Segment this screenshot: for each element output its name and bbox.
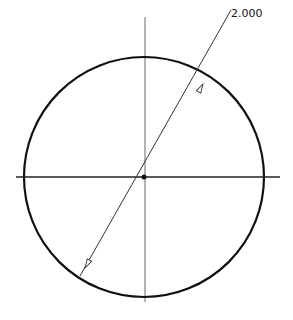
- center-point[interactable]: [142, 175, 147, 180]
- diameter-value-label[interactable]: 2.000: [231, 7, 263, 20]
- cad-drawing-canvas: 2.000: [0, 0, 293, 320]
- diameter-dimension-line[interactable]: [80, 10, 231, 276]
- arrowhead-upper-icon: [196, 83, 205, 93]
